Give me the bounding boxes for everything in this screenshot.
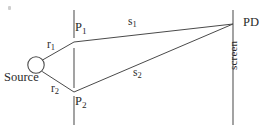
source-label: Source [4, 71, 39, 84]
ray-r2-label-subscript: 2 [55, 86, 59, 96]
ray-s1 [74, 24, 233, 42]
ray-r2-label: r2 [51, 83, 59, 95]
slit-p2-label-subscript: 2 [82, 100, 87, 110]
slit-p1-label-subscript: 1 [82, 26, 87, 36]
slit-p1-label-text: P [75, 20, 82, 34]
path-s2-label: s2 [133, 67, 142, 79]
screen-label: screen [228, 41, 239, 70]
ray-r1-label-subscript: 1 [51, 42, 55, 52]
slit-p2-label: P2 [75, 95, 87, 108]
path-s1-label: s1 [128, 16, 137, 28]
ray-r1-label: r1 [47, 39, 55, 51]
ray-s2 [74, 24, 233, 92]
photodetector-label: PD [243, 16, 259, 29]
diffracted-rays [74, 24, 233, 92]
interference-diagram-figure: Source r1 r2 P1 P2 s1 s2 PD screen [0, 0, 273, 130]
path-s1-label-subscript: 1 [132, 19, 136, 29]
slit-p2-label-text: P [75, 94, 82, 108]
path-s2-label-subscript: 2 [137, 70, 141, 80]
slit-p1-label: P1 [75, 21, 87, 34]
